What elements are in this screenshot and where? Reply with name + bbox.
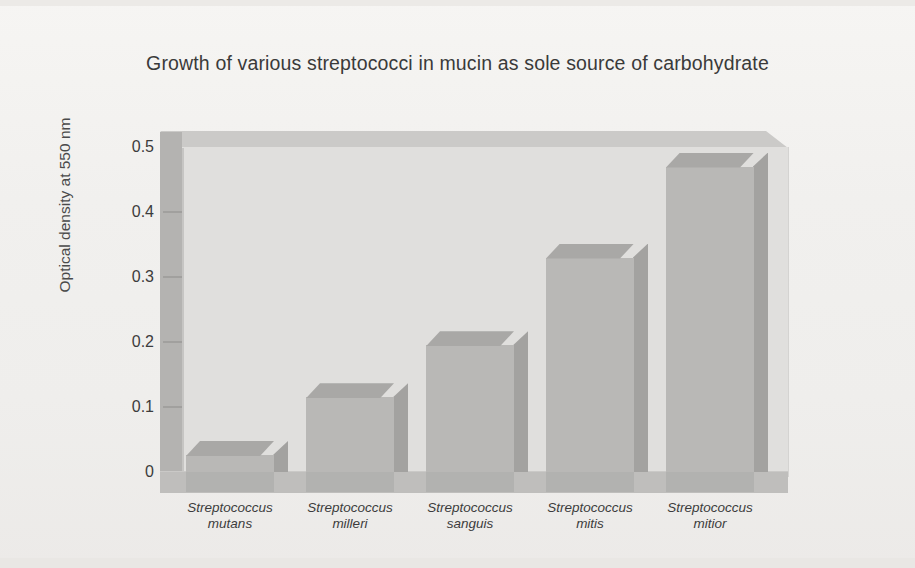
bar-shadow (666, 471, 754, 492)
category-species: milleri (290, 516, 410, 532)
bar-side-face (633, 244, 648, 473)
x-category-label-milleri: Streptococcusmilleri (290, 500, 410, 532)
bar-sanguis[interactable] (426, 345, 514, 472)
y-tick-mark (163, 277, 182, 278)
bar-mitior[interactable] (666, 167, 754, 473)
bar-top-face (186, 441, 274, 456)
bar-top-face (546, 244, 634, 259)
category-species: sanguis (410, 516, 530, 532)
category-genus: Streptococcus (410, 500, 530, 516)
bar-front-face (426, 345, 514, 472)
bar-side-face (393, 383, 408, 472)
y-axis-tick-labels: 0.50.40.30.20.10 (96, 131, 154, 493)
bar-shadow (306, 471, 394, 492)
paper-edge-bottom (0, 558, 915, 568)
bar-side-face (513, 331, 528, 472)
bar-top-face (306, 383, 394, 398)
bar-shadow (186, 471, 274, 492)
chart-title: Growth of various streptococci in mucin … (0, 52, 915, 75)
bar-front-face (186, 455, 274, 472)
bar-series (160, 131, 788, 493)
y-tick-label: 0.1 (108, 398, 154, 416)
x-category-label-sanguis: Streptococcussanguis (410, 500, 530, 532)
bar-side-face (753, 153, 768, 473)
bar-mutans[interactable] (186, 455, 274, 472)
bar-top-face (426, 331, 514, 346)
category-species: mitior (650, 516, 770, 532)
y-tick-label: 0.4 (108, 203, 154, 221)
y-tick-mark (163, 342, 182, 343)
bar-shadow (546, 471, 634, 492)
bar-top-face (666, 153, 754, 168)
category-genus: Streptococcus (650, 500, 770, 516)
bar-milleri[interactable] (306, 397, 394, 472)
bar-front-face (666, 167, 754, 473)
bar-front-face (306, 397, 394, 472)
y-tick-label: 0 (108, 463, 154, 481)
category-species: mutans (170, 516, 290, 532)
x-category-label-mutans: Streptococcusmutans (170, 500, 290, 532)
category-species: mitis (530, 516, 650, 532)
bar-shadow (426, 471, 514, 492)
bar-front-face (546, 258, 634, 473)
x-axis-category-labels: StreptococcusmutansStreptococcusmilleriS… (160, 500, 840, 550)
paper-edge-top (0, 0, 915, 6)
y-tick-label: 0.3 (108, 268, 154, 286)
x-category-label-mitior: Streptococcusmitior (650, 500, 770, 532)
category-genus: Streptococcus (290, 500, 410, 516)
y-tick-label: 0.5 (108, 138, 154, 156)
y-axis-title: Optical density at 550 nm (56, 80, 74, 330)
y-axis-tick-marks (163, 131, 187, 493)
bar-side-face (273, 441, 288, 472)
y-tick-label: 0.2 (108, 333, 154, 351)
category-genus: Streptococcus (170, 500, 290, 516)
category-genus: Streptococcus (530, 500, 650, 516)
y-tick-mark (163, 212, 182, 213)
y-tick-mark (163, 407, 182, 408)
bar-mitis[interactable] (546, 258, 634, 473)
x-category-label-mitis: Streptococcusmitis (530, 500, 650, 532)
